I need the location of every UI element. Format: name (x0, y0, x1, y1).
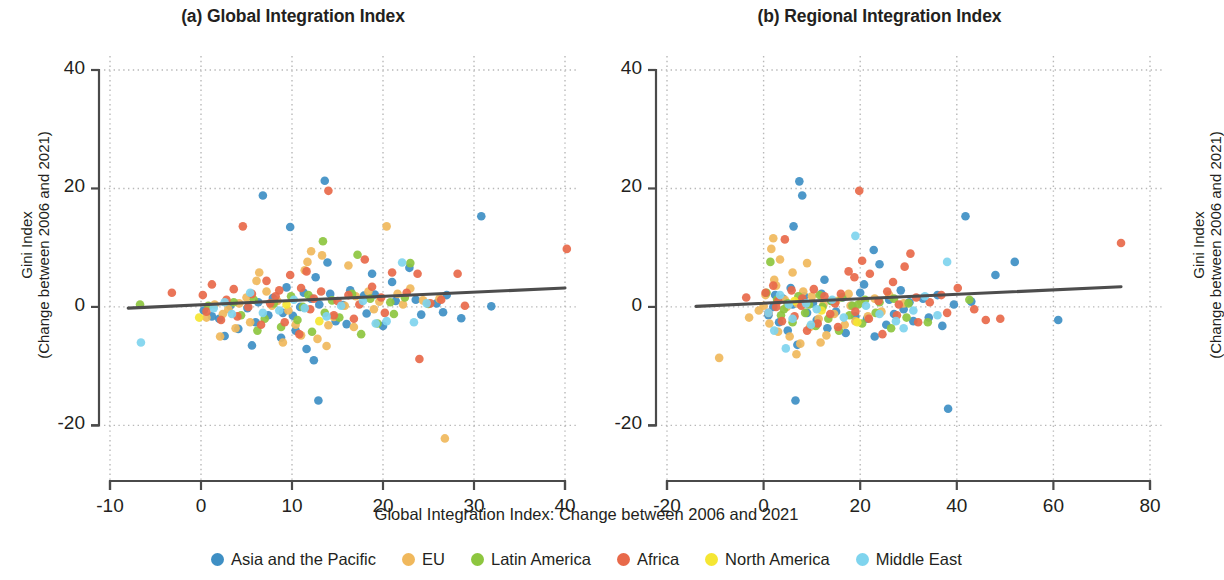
data-point (302, 345, 311, 354)
data-point (437, 296, 446, 305)
data-point (324, 321, 333, 330)
data-point (199, 291, 208, 300)
data-point (870, 332, 879, 341)
data-point (388, 278, 397, 287)
panel-b-y-axis-label-line2: (Change between 2006 and 2021) (1207, 55, 1224, 435)
panel-a-y-axis-label-line1: Gini Index (18, 55, 35, 435)
data-point (422, 299, 431, 308)
data-point (229, 285, 238, 294)
data-point (742, 293, 751, 302)
data-point (776, 255, 785, 264)
legend-item-latin_america[interactable]: Latin America (471, 551, 591, 568)
legend-marker-north_america-icon (705, 553, 718, 566)
data-point (769, 234, 778, 243)
data-point (371, 319, 380, 328)
data-point (314, 396, 323, 405)
data-point (933, 311, 942, 320)
data-point (938, 322, 947, 331)
data-point (370, 305, 379, 314)
data-point (764, 309, 773, 318)
data-point (865, 314, 874, 323)
data-point (906, 249, 915, 258)
data-point (850, 273, 859, 282)
data-point (950, 300, 959, 309)
data-point (318, 251, 327, 260)
data-point (137, 338, 146, 347)
data-point (782, 344, 791, 353)
data-point (798, 191, 807, 200)
data-point (820, 275, 829, 284)
legend-marker-africa-icon (617, 553, 630, 566)
data-point (875, 310, 884, 319)
data-point (1010, 258, 1019, 267)
data-point (889, 278, 898, 287)
data-point (837, 290, 846, 299)
data-point (280, 318, 289, 327)
axis-spines (91, 70, 565, 490)
legend-item-eu[interactable]: EU (402, 551, 445, 568)
data-point (909, 306, 918, 315)
data-point (208, 280, 217, 289)
data-point (303, 258, 312, 267)
y-tick-label: 0 (582, 294, 642, 316)
data-point (330, 311, 339, 320)
data-point (914, 318, 923, 327)
data-point (924, 318, 933, 327)
data-point (787, 286, 796, 295)
data-point (439, 308, 448, 317)
data-point (902, 313, 911, 322)
data-point (390, 310, 399, 319)
data-point (259, 309, 268, 318)
data-point (293, 316, 302, 325)
data-point (297, 284, 306, 293)
data-point (398, 258, 407, 267)
data-point (487, 302, 496, 311)
data-point (350, 323, 359, 332)
y-tick-label: 20 (582, 175, 642, 197)
data-point (353, 251, 362, 260)
y-tick-label: 0 (25, 294, 85, 316)
axis-spines (648, 70, 1150, 490)
data-point (317, 287, 326, 296)
legend-item-middle_east[interactable]: Middle East (856, 551, 962, 568)
legend-item-africa[interactable]: Africa (617, 551, 679, 568)
data-point (745, 313, 754, 322)
legend-marker-middle_east-icon (856, 553, 869, 566)
data-point (803, 259, 812, 268)
data-point (834, 323, 843, 332)
legend-label-africa: Africa (637, 551, 679, 568)
data-point (769, 281, 778, 290)
data-point (853, 318, 862, 327)
data-point (457, 314, 466, 323)
data-point (816, 338, 825, 347)
data-point (981, 316, 990, 325)
data-point (300, 304, 309, 313)
data-point (202, 307, 211, 316)
legend-marker-asia_pacific-icon (211, 553, 224, 566)
data-point (970, 305, 979, 314)
data-point (239, 222, 248, 231)
data-point (168, 288, 177, 297)
data-point (357, 330, 366, 339)
data-point (311, 273, 320, 282)
data-point (812, 305, 821, 314)
panel-a-y-axis-label: Gini Index (Change between 2006 and 2021… (18, 55, 52, 435)
y-axis-spine (91, 70, 99, 425)
data-point (855, 187, 864, 196)
data-point (778, 317, 787, 326)
legend-label-latin_america: Latin America (491, 551, 591, 568)
legend-item-asia_pacific[interactable]: Asia and the Pacific (211, 551, 376, 568)
legend-item-north_america[interactable]: North America (705, 551, 830, 568)
data-point (785, 332, 794, 341)
y-tick-label: 40 (25, 57, 85, 79)
data-point (257, 320, 266, 329)
panel-a-title: (a) Global Integration Index (0, 6, 586, 27)
data-point (320, 176, 329, 185)
data-point (413, 269, 422, 278)
data-point (308, 328, 317, 337)
gridlines (104, 56, 579, 481)
data-point (350, 314, 359, 323)
data-point (953, 284, 962, 293)
data-point (792, 350, 801, 359)
data-point (195, 313, 204, 322)
